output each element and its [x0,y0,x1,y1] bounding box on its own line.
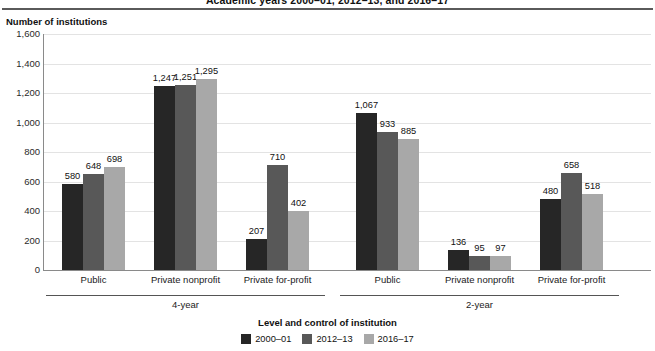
bar[interactable]: 933 [377,132,398,270]
y-tick-label: 400 [2,205,40,216]
y-axis-caption: Number of institutions [6,16,107,27]
legend-label: 2012–13 [316,334,352,344]
bar-value-label: 1,251 [174,72,197,82]
bar[interactable]: 402 [288,211,309,270]
legend-swatch-icon [364,334,374,344]
bar-value-label: 580 [65,171,81,181]
x-axis-title: Level and control of institution [0,317,655,328]
bar-value-label: 885 [401,126,417,136]
bar-value-label: 207 [249,226,265,236]
chart-title: Academic years 2000–01, 2012–13, and 201… [0,0,655,6]
x-category-label: Private nonprofit [136,274,236,285]
x-axis-line [43,270,651,271]
supergroup-label: 2-year [340,299,619,310]
y-axis-ticks: 02004006008001,0001,2001,4001,600 [0,34,40,271]
x-category-label: Private for-profit [228,274,328,285]
bar[interactable]: 658 [561,173,582,270]
y-tick-label: 600 [2,176,40,187]
bar-value-label: 658 [564,160,580,170]
bar[interactable]: 710 [267,165,288,270]
supergroup-label: 4-year [46,299,325,310]
legend-swatch-icon [241,334,251,344]
bar[interactable]: 207 [246,239,267,270]
bar-value-label: 518 [585,181,601,191]
bar-value-label: 1,295 [195,66,218,76]
bar[interactable]: 97 [490,256,511,270]
x-category-label: Public [338,274,438,285]
y-tick-label: 1,000 [2,117,40,128]
bar[interactable]: 480 [540,199,561,270]
y-tick-label: 1,200 [2,87,40,98]
bar[interactable]: 580 [62,184,83,270]
legend-swatch-icon [302,334,312,344]
y-tick-label: 1,400 [2,58,40,69]
chart-legend: 2000–012012–132016–17 [0,334,655,344]
title-rule [2,8,653,10]
y-tick-label: 200 [2,235,40,246]
bar[interactable]: 885 [398,139,419,270]
bar-group: 1,067933885 [356,34,419,270]
bar-value-label: 698 [107,154,123,164]
x-category-label: Private for-profit [522,274,622,285]
bar[interactable]: 1,247 [154,86,175,270]
x-category-label: Private nonprofit [430,274,530,285]
bar-value-label: 95 [474,243,484,253]
bar-value-label: 1,067 [355,100,378,110]
x-category-label: Public [44,274,144,285]
plot-area: 5806486981,2471,2511,2952077104021,06793… [44,34,651,270]
y-tick-label: 800 [2,146,40,157]
legend-item[interactable]: 2000–01 [241,334,291,344]
bar[interactable]: 698 [104,167,125,270]
bar-value-label: 1,247 [153,73,176,83]
bar-group: 1,2471,2511,295 [154,34,217,270]
bar-value-label: 648 [86,161,102,171]
legend-label: 2000–01 [255,334,291,344]
y-tick-label: 0 [2,264,40,275]
bar[interactable]: 648 [83,174,104,270]
legend-item[interactable]: 2016–17 [364,334,414,344]
bar-group: 207710402 [246,34,309,270]
bar-group: 1369597 [448,34,511,270]
legend-item[interactable]: 2012–13 [302,334,352,344]
bar-group: 580648698 [62,34,125,270]
bar[interactable]: 1,295 [196,79,217,270]
bar-value-label: 480 [543,186,559,196]
bar[interactable]: 1,251 [175,85,196,270]
bar-value-label: 136 [451,237,467,247]
bar-value-label: 710 [270,152,286,162]
bar[interactable]: 95 [469,256,490,270]
bar[interactable]: 1,067 [356,113,377,270]
bar[interactable]: 136 [448,250,469,270]
bar-group: 480658518 [540,34,603,270]
supergroup-bracket [340,295,619,296]
legend-label: 2016–17 [378,334,414,344]
bar-value-label: 933 [380,119,396,129]
bar[interactable]: 518 [582,194,603,270]
bar-value-label: 97 [495,243,505,253]
y-tick-label: 1,600 [2,28,40,39]
supergroup-bracket [46,295,325,296]
bar-value-label: 402 [291,198,307,208]
